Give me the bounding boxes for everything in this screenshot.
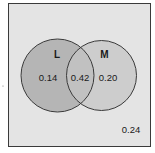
set-L-label: L xyxy=(54,49,60,60)
stray-dot xyxy=(2,85,3,86)
L-only-value: 0.14 xyxy=(39,72,58,83)
outside-value: 0.24 xyxy=(122,124,141,135)
venn-diagram: L M 0.14 0.42 0.20 0.24 xyxy=(0,0,155,153)
intersection-value: 0.42 xyxy=(71,72,90,83)
set-M-label: M xyxy=(100,49,108,60)
M-only-value: 0.20 xyxy=(99,72,118,83)
